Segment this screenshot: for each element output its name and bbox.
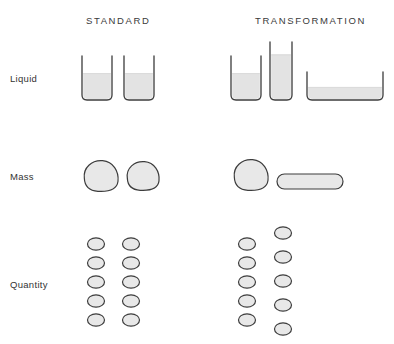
standard-counter-0-2 [88,276,105,288]
standard-counter-0-4 [88,314,105,326]
transformation-counter-1-2 [275,275,292,287]
row-mass [84,160,343,192]
standard-mass-item-0 [84,161,118,192]
transformation-counter-0-3 [239,295,256,307]
standard-counter-1-3 [123,295,140,307]
transformation-counter-1-0 [275,227,292,239]
standard-counter-1-2 [123,276,140,288]
transformation-counter-1-4 [275,323,292,335]
cell-quantity-transformation [239,227,292,335]
transformation-counter-1-1 [275,251,292,263]
cell-mass-transformation [234,160,343,191]
conservation-diagram: STANDARD TRANSFORMATION Liquid Mass Quan… [0,0,394,344]
transformation-mass-item-0 [234,160,268,191]
standard-counter-1-0 [123,238,140,250]
standard-counter-0-1 [88,257,105,269]
transformation-counter-1-3 [275,299,292,311]
transformation-liquid-item-1-liquid [271,55,291,99]
transformation-counter-0-0 [239,238,256,250]
standard-counter-1-4 [123,314,140,326]
row-quantity [88,227,292,335]
transformation-liquid-item-2-liquid [308,87,382,99]
transformation-mass-item-1 [277,174,343,189]
standard-counter-0-0 [88,238,105,250]
cell-liquid-transformation [231,42,383,100]
transformation-counter-column-1 [275,227,292,335]
standard-counter-1-1 [123,257,140,269]
transformation-counter-0-4 [239,314,256,326]
standard-counter-column-1 [123,238,140,326]
transformation-liquid-item-0-liquid [232,74,260,99]
transformation-counter-0-2 [239,276,256,288]
standard-liquid-item-1-liquid [125,74,153,99]
transformation-counter-0-1 [239,257,256,269]
standard-counter-0-3 [88,295,105,307]
standard-liquid-item-0-liquid [83,74,111,99]
transformation-counter-column-0 [239,238,256,326]
cell-quantity-standard [88,238,140,326]
cell-liquid-standard [82,56,154,100]
row-liquid [82,42,383,100]
standard-counter-column-0 [88,238,105,326]
standard-mass-item-1 [127,162,159,191]
diagram-graphics [0,0,394,344]
cell-mass-standard [84,161,159,192]
